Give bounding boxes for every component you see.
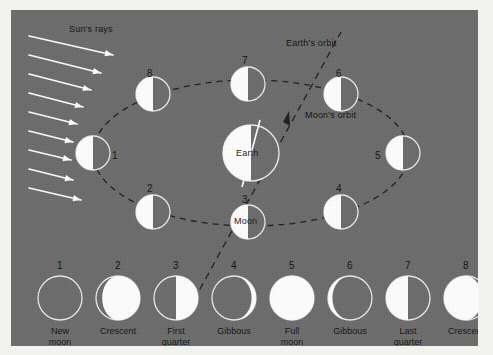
phase-number-4: 4 (231, 260, 237, 271)
suns-rays-label: Sun's rays (69, 24, 113, 35)
orbit-number-5: 5 (375, 150, 381, 161)
orbit-moon-8 (136, 77, 170, 111)
suns-ray-arrow-9 (29, 188, 81, 201)
diagram-root: Sun's rays Earth's orbit Moon's orbit Ea… (0, 0, 493, 355)
phase-last-quarter (386, 276, 430, 320)
orbit-number-8: 8 (147, 68, 153, 79)
phase-caption-2: Crescent (85, 326, 151, 337)
orbit-moon-5 (386, 136, 420, 170)
diagram-panel: Sun's rays Earth's orbit Moon's orbit Ea… (11, 10, 478, 346)
phase-caption-7: Lastquarter (375, 326, 441, 346)
suns-rays-arrows (29, 36, 113, 201)
moons-orbit-label: Moon's orbit (305, 110, 356, 121)
suns-ray-arrow-5 (29, 112, 77, 125)
phase-number-8: 8 (463, 260, 469, 271)
suns-ray-arrow-4 (29, 93, 83, 108)
phase-number-2: 2 (115, 260, 121, 271)
orbit-number-7: 7 (242, 55, 248, 66)
orbit-number-6: 6 (336, 68, 342, 79)
suns-ray-arrow-2 (29, 55, 101, 74)
orbit-number-1: 1 (112, 150, 118, 161)
suns-ray-arrow-7 (29, 150, 71, 161)
earths-orbit-label: Earth's orbit (286, 38, 336, 49)
orbit-moon-2 (136, 195, 170, 229)
phase-number-1: 1 (57, 260, 63, 271)
phase-first-quarter (154, 276, 198, 320)
orbit-number-3: 3 (242, 194, 248, 205)
phase-number-6: 6 (347, 260, 353, 271)
earth-label: Earth (236, 148, 259, 159)
phase-strip-circles (38, 276, 478, 320)
phase-caption-1: Newmoon (27, 326, 93, 346)
phase-caption-3: Firstquarter (143, 326, 209, 346)
phase-caption-8: Crescent (433, 326, 478, 337)
phase-new (38, 276, 82, 320)
phase-waxing-crescent (96, 276, 140, 320)
phase-caption-5: Fullmoon (259, 326, 325, 346)
phase-full (270, 276, 314, 320)
suns-ray-arrow-1 (29, 36, 113, 56)
phase-waning-crescent (444, 276, 478, 320)
phase-number-5: 5 (289, 260, 295, 271)
suns-ray-arrow-8 (29, 169, 73, 181)
suns-ray-arrow-3 (29, 74, 91, 91)
orbit-moon-6 (324, 77, 358, 111)
phase-waning-gibbous (328, 276, 372, 320)
orbit-moon-4 (324, 195, 358, 229)
moon-label: Moon (234, 216, 257, 227)
phase-waxing-gibbous (212, 276, 256, 320)
orbit-number-4: 4 (336, 183, 342, 194)
phase-number-7: 7 (405, 260, 411, 271)
orbit-moon-7 (231, 67, 265, 101)
suns-ray-arrow-6 (29, 131, 73, 143)
orbit-number-2: 2 (147, 183, 153, 194)
phase-caption-4: Gibbous (201, 326, 267, 337)
phase-number-3: 3 (173, 260, 179, 271)
orbit-moon-1 (76, 136, 110, 170)
phase-caption-6: Gibbous (317, 326, 383, 337)
